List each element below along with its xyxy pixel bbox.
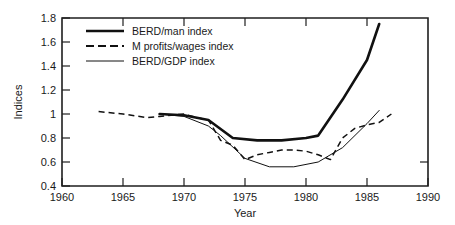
legend-item-berd-man: BERD/man index [86, 25, 213, 37]
y-tick-label: 1.2 [41, 84, 56, 96]
y-axis-title: Indices [12, 84, 24, 119]
series-line-m-profits-wages [99, 112, 392, 160]
y-tick-label: 1.4 [41, 60, 56, 72]
x-tick-label: 1990 [416, 191, 440, 203]
y-tick-label: 0.6 [41, 156, 56, 168]
chart-legend: BERD/man index M profits/wages index BER… [86, 25, 234, 67]
legend-item-m-profits-wages: M profits/wages index [86, 40, 234, 52]
x-tick-label: 1965 [111, 191, 135, 203]
y-tick-label: 0.8 [41, 132, 56, 144]
y-tick-label: 1 [50, 108, 56, 120]
legend-label: M profits/wages index [132, 40, 234, 52]
legend-label: BERD/man index [132, 25, 213, 37]
y-axis-ticks [62, 18, 70, 186]
x-tick-label: 1970 [172, 191, 196, 203]
x-tick-label: 1985 [355, 191, 379, 203]
chart-figure: 1.8 1.6 1.4 1.2 1 0.8 0.6 0.4 [0, 0, 455, 225]
line-chart: 1.8 1.6 1.4 1.2 1 0.8 0.6 0.4 [0, 0, 455, 225]
legend-label: BERD/GDP index [132, 55, 215, 67]
x-tick-label: 1980 [294, 191, 318, 203]
x-axis-tick-labels: 1960 1965 1970 1975 1980 1985 1990 [50, 191, 440, 203]
y-axis-tick-labels: 1.8 1.6 1.4 1.2 1 0.8 0.6 0.4 [41, 12, 56, 192]
legend-item-berd-gdp: BERD/GDP index [86, 55, 215, 67]
y-tick-label: 1.6 [41, 36, 56, 48]
x-tick-label: 1975 [233, 191, 257, 203]
x-axis-title: Year [234, 207, 257, 219]
series-line-berd-gdp [160, 110, 380, 166]
y-tick-label: 1.8 [41, 12, 56, 24]
x-tick-label: 1960 [50, 191, 74, 203]
